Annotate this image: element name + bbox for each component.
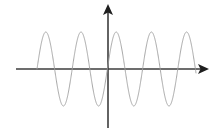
sine-wave-figure — [0, 0, 216, 135]
plot-canvas — [0, 0, 216, 135]
